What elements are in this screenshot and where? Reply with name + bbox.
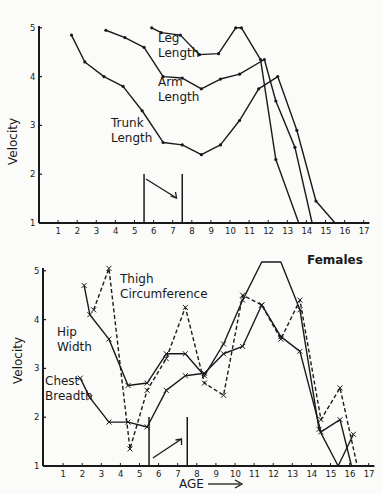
bottom-y-axis-label: Velocity [11,337,25,384]
x-tick-label: 10 [225,226,236,236]
x-tick-label: 6 [156,469,161,479]
y-tick-label: 3 [34,363,39,373]
x-tick-label: 16 [345,469,356,479]
x-tick-label: 10 [230,469,241,479]
x-tick-label: 4 [118,469,123,479]
y-tick-label: 3 [30,120,35,130]
arm-length-label: Arm [158,75,183,89]
y-tick-label: 2 [30,169,35,179]
chest-breadth-label-2: Breadth [45,389,93,403]
x-tick-label: 12 [263,226,274,236]
x-tick-label: 17 [364,469,375,479]
y-tick-label: 4 [34,315,39,325]
x-tick-label: 8 [189,226,194,236]
x-tick-label: 3 [99,469,104,479]
y-tick-label: 4 [30,72,35,82]
leg-length-label-2: Length [158,46,199,60]
x-tick-label: 6 [151,226,156,236]
arrow-up-right-icon [153,439,182,458]
x-tick-label: 3 [94,226,99,236]
x-tick-label: 16 [340,226,351,236]
hip-width-label: Hip [57,325,77,339]
x-tick-label: 14 [306,469,317,479]
leg-length-label: Leg [158,31,179,45]
y-tick-label: 1 [30,218,35,228]
age-axis-label: AGE [179,477,204,491]
x-tick-label: 11 [244,226,255,236]
x-tick-label: 4 [113,226,118,236]
x-tick-label: 14 [301,226,312,236]
x-tick-label: 2 [80,469,85,479]
age-arrow-icon [208,480,242,488]
x-tick-label: 7 [170,226,175,236]
x-tick-label: 15 [326,469,337,479]
x-tick-label: 11 [249,469,260,479]
x-tick-label: 5 [132,226,137,236]
x-tick-label: 1 [61,469,66,479]
females-title: Females [307,253,363,267]
thigh-circumference-label-2: Circumference [120,287,208,301]
x-tick-label: 13 [287,469,298,479]
y-tick-label: 5 [30,23,35,33]
y-tick-label: 2 [34,412,39,422]
x-tick-label: 12 [268,469,279,479]
y-tick-label: 1 [34,461,39,471]
x-tick-label: 1 [56,226,61,236]
thigh-circumference-label: Thigh [119,272,154,286]
arrow-down-right-icon [146,179,177,198]
x-tick-label: 13 [282,226,293,236]
arm-length-label-2: Length [158,90,199,104]
hip-width-label-2: Width [57,340,92,354]
x-tick-label: 5 [137,469,142,479]
growth-velocity-chart: 123451234567891011121314151617 123451234… [0,0,382,494]
trunk-length-label-2: Length [111,131,152,145]
top-y-axis-label: Velocity [6,118,20,165]
series-chest-breadth [78,302,352,466]
y-tick-label: 5 [34,266,39,276]
top-panel: 123451234567891011121314151617 [30,23,370,236]
chest-breadth-label: Chest [45,374,80,388]
x-tick-label: 15 [321,226,332,236]
trunk-length-label: Trunk [110,116,144,130]
series-trunk-length [70,34,335,223]
x-tick-label: 9 [213,469,218,479]
x-tick-label: 2 [75,226,80,236]
x-tick-label: 17 [359,226,370,236]
x-tick-label: 9 [208,226,213,236]
